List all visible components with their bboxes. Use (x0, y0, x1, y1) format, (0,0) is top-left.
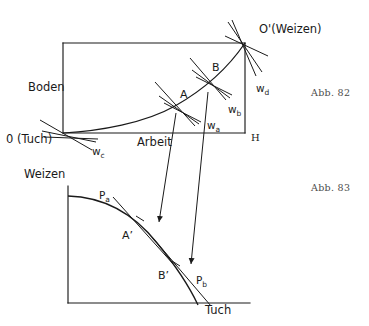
price-line-label-wc-text: w (92, 145, 101, 157)
point-label-a-prime-text: A (122, 229, 130, 242)
price-line-label-pb: Pb (196, 275, 207, 289)
price-line-label-wb: wb (228, 104, 241, 118)
point-label-b-prime: B’ (158, 270, 169, 281)
point-label-a-prime: A’ (122, 230, 133, 241)
corner-label-h: H (251, 133, 260, 143)
ppf-curve (68, 196, 198, 305)
point-label-a: A (180, 89, 188, 100)
price-line-label-wc: wc (92, 146, 105, 160)
axis-label-arbeit: Arbeit (137, 137, 172, 149)
price-line-label-wd-text: w (256, 82, 265, 94)
price-line-label-wd-sub: d (265, 88, 270, 97)
axis-label-weizen: Weizen (24, 169, 65, 181)
point-label-a-prime-mark: ’ (130, 229, 134, 242)
price-line-label-wa: wa (207, 120, 220, 134)
price-line-label-wd: wd (256, 83, 269, 97)
origin-label-oprime-weizen: O'(Weizen) (259, 24, 322, 36)
caption-abb-83: Abb. 83 (311, 182, 350, 193)
point-label-b-prime-text: B (158, 269, 166, 282)
price-line-label-wb-sub: b (237, 109, 242, 118)
price-line-label-wa-sub: a (216, 125, 221, 134)
connector-arrow-a (159, 113, 176, 222)
point-label-b: B (212, 62, 220, 73)
origin-label-o-tuch: 0 (Tuch) (6, 134, 52, 146)
tangency-lines-point-b (190, 58, 232, 100)
price-line-label-pb-sub: b (202, 280, 207, 289)
axis-label-boden: Boden (28, 82, 65, 94)
price-line-label-wc-sub: c (101, 151, 105, 160)
axis-label-tuch: Tuch (205, 305, 231, 317)
price-line-label-wa-text: w (207, 119, 216, 131)
point-label-b-prime-mark: ’ (166, 269, 170, 282)
caption-abb-82: Abb. 82 (311, 87, 350, 98)
tick-marker-a-prime (136, 216, 144, 221)
figure-drawing (0, 0, 369, 326)
price-line-label-wb-text: w (228, 103, 237, 115)
price-line-label-pa: Pa (99, 190, 110, 204)
price-line-label-pa-sub: a (105, 195, 110, 204)
figure-root: Boden Arbeit 0 (Tuch) O'(Weizen) A B wa … (0, 0, 369, 326)
